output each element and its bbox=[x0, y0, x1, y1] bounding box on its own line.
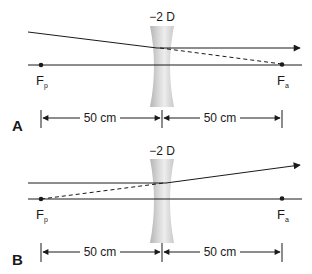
incident-ray bbox=[28, 32, 157, 48]
distance-label-left: 50 cm bbox=[84, 245, 117, 259]
refracted-ray bbox=[166, 165, 300, 183]
distance-label-right: 50 cm bbox=[204, 245, 237, 259]
diagram-canvas: −2 D Fp Fa 50 cm 50 cm A − bbox=[0, 0, 312, 274]
distance-label-left: 50 cm bbox=[84, 111, 117, 125]
fa-label: Fa bbox=[277, 73, 289, 89]
panel-a: −2 D Fp Fa 50 cm 50 cm A bbox=[12, 10, 302, 134]
lens-power-label: −2 D bbox=[149, 10, 175, 24]
concave-lens bbox=[150, 26, 174, 107]
focal-point-fp bbox=[39, 63, 44, 68]
lens-power-label: −2 D bbox=[149, 144, 175, 158]
dimension-lines: 50 cm 50 cm bbox=[41, 243, 282, 262]
panel-b: −2 D Fp Fa 50 cm 50 cm B bbox=[12, 144, 302, 268]
focal-point-fa bbox=[280, 196, 285, 201]
focal-point-fa bbox=[280, 62, 285, 67]
concave-lens bbox=[150, 159, 174, 243]
fp-label: Fp bbox=[36, 73, 48, 90]
distance-label-right: 50 cm bbox=[204, 111, 237, 125]
panel-label: A bbox=[12, 117, 23, 134]
fa-label: Fa bbox=[277, 207, 289, 223]
fp-label: Fp bbox=[36, 207, 48, 224]
virtual-ray-extension bbox=[160, 48, 282, 64]
panel-label: B bbox=[12, 251, 23, 268]
focal-point-fp bbox=[39, 197, 44, 202]
virtual-ray-extension bbox=[41, 183, 164, 199]
dimension-lines: 50 cm 50 cm bbox=[41, 110, 282, 128]
